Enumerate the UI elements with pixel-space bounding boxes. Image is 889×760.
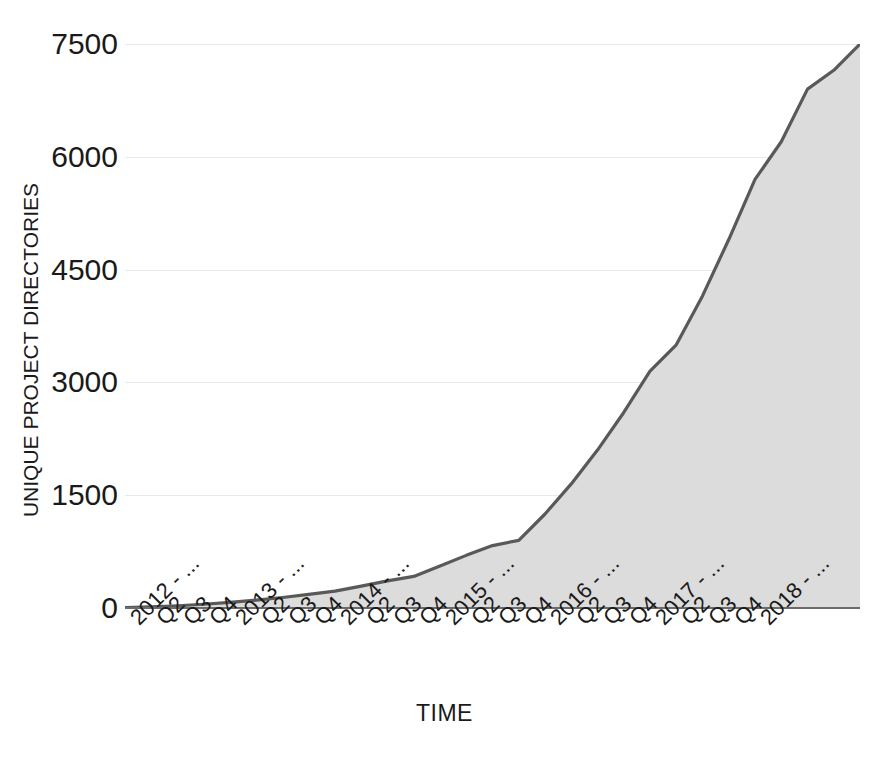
x-tick-label-11: Q4 (414, 612, 432, 630)
area-fill-path (125, 44, 860, 608)
x-tick-label-2: Q3 (178, 612, 196, 630)
x-tick-label-18: Q3 (598, 612, 616, 630)
chart-root: 7500 6000 4500 3000 1500 0 UNIQUE PROJEC… (0, 0, 889, 760)
x-tick-label-19: Q4 (624, 612, 642, 630)
x-tick-label-8: 2014 - ... (335, 612, 353, 630)
x-tick-label-0: 2012 - ... (125, 612, 143, 630)
x-tick-label-9: Q2 (361, 612, 379, 630)
y-axis-title-text: UNIQUE PROJECT DIRECTORIES (19, 183, 43, 517)
x-tick-label-17: Q2 (571, 612, 589, 630)
x-tick-label-12: 2015 - ... (440, 612, 458, 630)
x-tick-label-21: Q2 (676, 612, 694, 630)
x-axis-tick-labels: 2012 - ...Q2Q3Q42013 - ...Q2Q3Q42014 - .… (125, 612, 860, 712)
plot-area (125, 44, 860, 608)
x-tick-label-13: Q2 (466, 612, 484, 630)
x-tick-label-1: Q2 (151, 612, 169, 630)
x-tick-label-14: Q3 (493, 612, 511, 630)
y-tick-label-0: 0 (0, 593, 118, 623)
x-tick-label-20: 2017 - ... (650, 612, 668, 630)
x-tick-label-10: Q3 (388, 612, 406, 630)
y-tick-label-7500: 7500 (0, 29, 118, 59)
x-tick-label-6: Q3 (283, 612, 301, 630)
x-tick-label-5: Q2 (256, 612, 274, 630)
x-axis-title: TIME (0, 700, 889, 727)
x-tick-label-23: Q4 (729, 612, 747, 630)
x-tick-label-24: 2018 - ... (755, 612, 773, 630)
y-axis-title: UNIQUE PROJECT DIRECTORIES (14, 120, 48, 580)
x-tick-label-22: Q3 (703, 612, 721, 630)
x-tick-label-16: 2016 - ... (545, 612, 563, 630)
x-tick-label-7: Q4 (309, 612, 327, 630)
x-tick-label-3: Q4 (204, 612, 222, 630)
area-series-svg (125, 44, 860, 608)
x-tick-label-15: Q4 (519, 612, 537, 630)
x-tick-label-4: 2013 - ... (230, 612, 248, 630)
